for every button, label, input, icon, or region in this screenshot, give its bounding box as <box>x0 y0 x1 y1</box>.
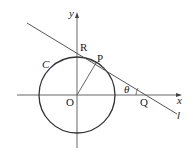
point-q-label: Q <box>140 96 148 108</box>
angle-theta-label: θ <box>124 83 130 95</box>
line-l-label: l <box>177 109 180 121</box>
radius-op <box>77 63 96 95</box>
diagram-canvas: y x O C P R Q θ l <box>0 0 194 158</box>
x-axis-label: x <box>176 94 182 106</box>
origin-label: O <box>66 96 74 108</box>
point-p-label: P <box>97 52 103 64</box>
circle-label: C <box>42 58 50 70</box>
y-axis-arrow-icon <box>75 12 79 18</box>
point-r-label: R <box>80 41 88 53</box>
y-axis-label: y <box>68 7 74 19</box>
